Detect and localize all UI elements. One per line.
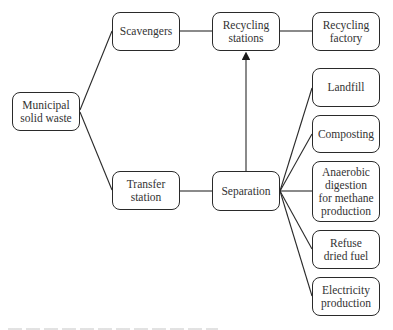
node-recycling-stations: Recycling stations bbox=[212, 12, 280, 51]
msw-flow-diagram: Municipal solid waste Scavengers Recycli… bbox=[0, 0, 393, 330]
node-transfer-station: Transfer station bbox=[112, 171, 180, 210]
node-scavengers: Scavengers bbox=[112, 12, 180, 51]
node-electricity-production: Electricity production bbox=[312, 277, 380, 316]
figure-caption-cropped bbox=[8, 325, 218, 330]
edge-separation-composting bbox=[280, 134, 312, 191]
edge-msw-transfer bbox=[80, 112, 112, 190]
node-landfill: Landfill bbox=[312, 68, 380, 107]
node-refuse-dried-fuel: Refuse dried fuel bbox=[312, 230, 380, 269]
node-recycling-factory: Recycling factory bbox=[312, 12, 380, 51]
node-composting: Composting bbox=[312, 115, 380, 153]
node-anaerobic-digestion: Anaerobic digestion for methane producti… bbox=[312, 161, 380, 222]
edge-msw-scavengers bbox=[80, 31, 112, 110]
node-municipal-solid-waste: Municipal solid waste bbox=[12, 92, 80, 131]
edge-separation-landfill bbox=[280, 88, 312, 191]
edge-separation-electricity bbox=[280, 191, 312, 296]
node-separation: Separation bbox=[212, 171, 280, 211]
edge-separation-rdf bbox=[280, 191, 312, 249]
